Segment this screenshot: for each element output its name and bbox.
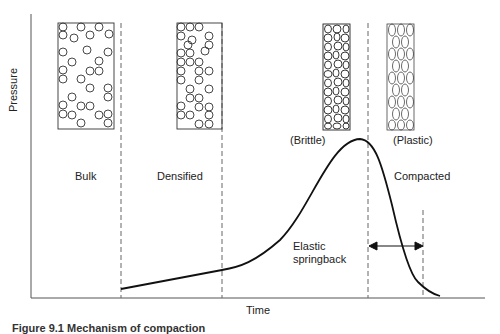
annotation-springback: springback <box>293 253 346 265</box>
stage-label-brittle: (Brittle) <box>290 134 325 146</box>
stage-label-compacted: Compacted <box>394 170 450 182</box>
x-axis-label: Time <box>246 304 270 316</box>
y-axis-label: Pressure <box>7 68 19 112</box>
figure-caption: Figure 9.1 Mechanism of compaction <box>12 322 205 334</box>
springback-arrow-icon <box>369 242 423 250</box>
annotation-elastic: Elastic <box>293 240 325 252</box>
bulk-particles-icon <box>58 23 114 129</box>
densified-particles-icon <box>177 23 222 129</box>
stage-label-plastic: (Plastic) <box>393 134 433 146</box>
stage-dividers <box>121 23 423 298</box>
stage-label-bulk: Bulk <box>75 170 96 182</box>
stage-label-densified: Densified <box>157 170 203 182</box>
brittle-particles-icon <box>323 24 350 130</box>
plastic-particles-icon <box>387 24 414 130</box>
pressure-curve <box>121 139 440 296</box>
